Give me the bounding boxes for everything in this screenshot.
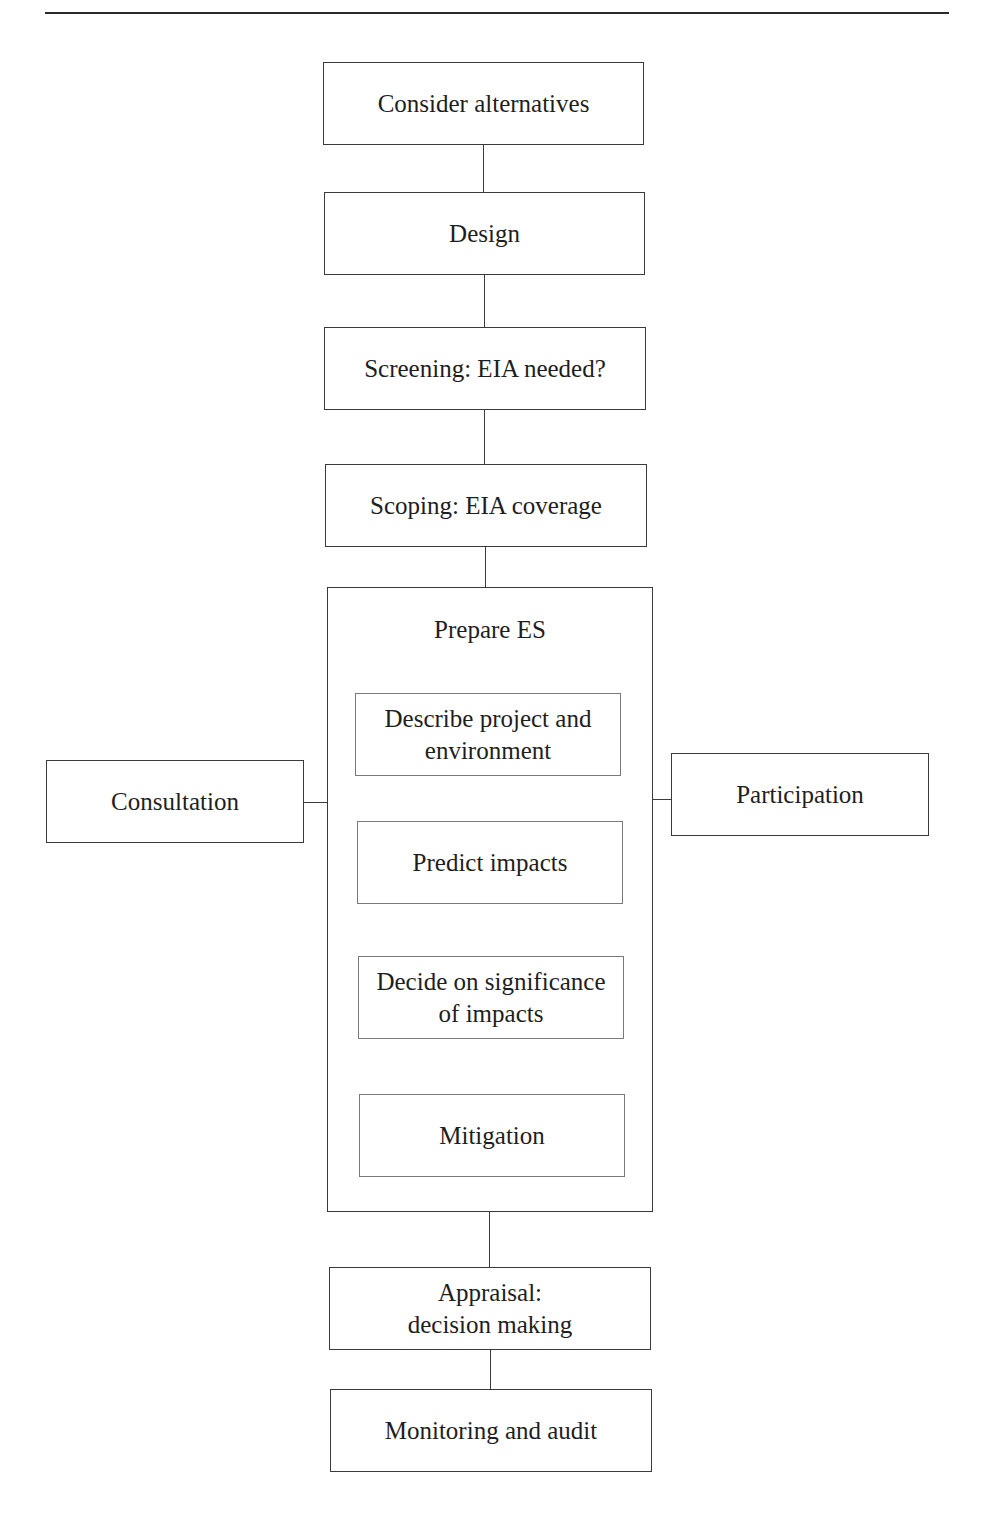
step-scoping: Scoping: EIA coverage bbox=[325, 464, 647, 547]
step-label: Screening: EIA needed? bbox=[364, 353, 606, 385]
step-design: Design bbox=[324, 192, 645, 275]
substep-mitigation: Mitigation bbox=[359, 1094, 625, 1177]
step-label: Monitoring and audit bbox=[385, 1415, 597, 1447]
prepare-es-title: Prepare ES bbox=[328, 614, 652, 646]
step-monitoring: Monitoring and audit bbox=[330, 1389, 652, 1472]
step-appraisal: Appraisal: decision making bbox=[329, 1267, 651, 1350]
side-label: Participation bbox=[736, 779, 864, 811]
connector-scoping-prepare bbox=[485, 546, 486, 587]
substep-label: Predict impacts bbox=[413, 847, 568, 879]
connector-screening-scoping bbox=[484, 409, 485, 464]
substep-decide-significance: Decide on significance of impacts bbox=[358, 956, 624, 1039]
side-label: Consultation bbox=[111, 786, 239, 818]
substep-label: Describe project and environment bbox=[385, 703, 592, 767]
step-consider-alternatives: Consider alternatives bbox=[323, 62, 644, 145]
connector-consultation-prepare bbox=[303, 802, 328, 803]
connector-appraisal-monitoring bbox=[490, 1349, 491, 1389]
substep-label: Mitigation bbox=[439, 1120, 545, 1152]
step-label: Design bbox=[449, 218, 520, 250]
connector-alternatives-design bbox=[483, 144, 484, 192]
connector-prepare-participation bbox=[651, 799, 671, 800]
connector-design-screening bbox=[484, 274, 485, 327]
substep-predict: Predict impacts bbox=[357, 821, 623, 904]
side-consultation: Consultation bbox=[46, 760, 304, 843]
step-screening: Screening: EIA needed? bbox=[324, 327, 646, 410]
step-label: Scoping: EIA coverage bbox=[370, 490, 602, 522]
side-participation: Participation bbox=[671, 753, 929, 836]
step-label: Consider alternatives bbox=[378, 88, 590, 120]
substep-describe: Describe project and environment bbox=[355, 693, 621, 776]
substep-label: Decide on significance of impacts bbox=[376, 966, 605, 1030]
header-rule bbox=[45, 12, 949, 14]
step-label: Appraisal: decision making bbox=[408, 1277, 573, 1341]
connector-prepare-appraisal bbox=[489, 1211, 490, 1267]
